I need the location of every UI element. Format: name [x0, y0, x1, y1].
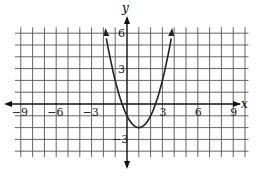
x-tick-label: −6 [47, 106, 63, 119]
x-tick-label: −9 [12, 106, 28, 119]
x-tick-label: −3 [83, 106, 99, 119]
x-tick-label: 9 [230, 106, 237, 119]
y-tick-label: 6 [118, 27, 125, 40]
curve-arrow-icon [168, 28, 174, 36]
y-tick-label: −3 [112, 133, 128, 146]
chart: −9−6−336963−3 x y [0, 0, 261, 179]
curve-arrow-icon [103, 28, 109, 36]
x-axis-label: x [241, 97, 248, 111]
y-tick-label: 3 [118, 63, 125, 76]
x-tick-label: 3 [159, 106, 166, 119]
grid [15, 27, 249, 157]
y-axis-label: y [121, 1, 129, 15]
x-tick-label: 6 [195, 106, 202, 119]
